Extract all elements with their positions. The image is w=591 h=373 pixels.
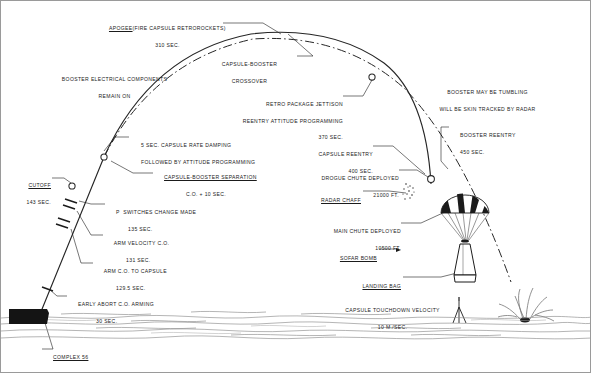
label-cutoff-l1: CUTOFF: [28, 182, 51, 188]
label-capsule-reentry-l1: CAPSULE REENTRY: [318, 151, 373, 157]
label-retro-jettison-l1: RETRO PACKAGE JETTISON: [266, 101, 343, 107]
marker-separation: [101, 154, 107, 160]
radar-chaff-cloud-icon: [402, 183, 414, 200]
recovery-antenna-icon: [453, 297, 466, 323]
label-apogee: APOGEE(FIRE CAPSULE RETROROCKETS) 310 SE…: [102, 16, 226, 57]
label-early-abort-l1: EARLY ABORT C.O. ARMING: [78, 301, 154, 307]
marker-drogue-deploy: [428, 176, 435, 183]
label-booster-tumbling: BOOSTER MAY BE TUMBLING WILL BE SKIN TRA…: [432, 80, 535, 121]
landing-bag-illustration: [454, 275, 476, 282]
label-booster-reentry: BOOSTER REENTRY 450 SEC.: [453, 123, 516, 164]
label-complex-l1: COMPLEX 56: [53, 354, 88, 360]
label-touchdown-l2: 10 M./SEC.: [378, 324, 407, 330]
label-booster-tumbling-l2: WILL BE SKIN TRACKED BY RADAR: [439, 106, 535, 112]
label-crossover-l1: CAPSULE-BOOSTER: [222, 61, 277, 67]
label-cutoff-l2: 143 SEC.: [26, 199, 51, 205]
label-pc-switches-l1: P SWITCHES CHANGE MADE: [116, 209, 196, 215]
label-rate-damping-l1: 5 SEC. CAPSULE RATE DAMPING: [141, 142, 231, 148]
label-touchdown-l1: CAPSULE TOUCHDOWN VELOCITY: [345, 307, 440, 313]
label-landing-bag-l1: LANDING BAG: [362, 283, 401, 289]
capsule-illustration: [454, 244, 476, 282]
label-complex: COMPLEX 56 PAD 5: [46, 345, 88, 373]
main-parachute-illustration: [441, 193, 489, 242]
label-landing-bag: LANDING BAG: [355, 274, 401, 299]
label-rate-damping-l2: FOLLOWED BY ATTITUDE PROGRAMMING: [141, 159, 255, 165]
label-cutoff: CUTOFF 143 SEC.: [19, 173, 51, 214]
marker-retro-jettison: [369, 74, 375, 80]
label-booster-tumbling-l1: BOOSTER MAY BE TUMBLING: [447, 89, 528, 95]
label-arm-velocity-l1: ARM VELOCITY C.O.: [114, 240, 170, 246]
label-sofar-bomb-l1: SOFAR BOMB: [340, 255, 377, 261]
label-crossover-l2: CROSSOVER: [232, 78, 268, 84]
label-drogue-l2: 21000 FT.: [373, 192, 399, 198]
label-retro-jettison-l3: 370 SEC.: [318, 134, 343, 140]
label-main-chute-l1: MAIN CHUTE DEPLOYED: [334, 228, 401, 234]
label-arm-co-capsule-l2: 129.5 SEC.: [104, 285, 145, 291]
mission-profile-diagram: APOGEE(FIRE CAPSULE RETROROCKETS) 310 SE…: [0, 0, 591, 373]
label-crossover: CAPSULE-BOOSTER CROSSOVER: [215, 52, 278, 93]
label-early-abort: EARLY ABORT C.O. ARMING 30 SEC.: [71, 292, 154, 333]
label-booster-reentry-l2: 450 SEC.: [460, 149, 485, 155]
label-drogue-l1: DROGUE CHUTE DEPLOYED: [321, 175, 399, 181]
label-early-abort-l2: 30 SEC.: [78, 318, 117, 324]
label-retro-jettison-l2: REENTRY ATTITUDE PROGRAMMING: [243, 118, 343, 124]
label-booster-electrical-l2: REMAIN ON: [99, 93, 131, 99]
label-main-chute-l2: 10500 FT.: [375, 245, 401, 251]
label-separation-l1: CAPSULE-BOOSTER SEPARATION: [164, 174, 257, 180]
label-apogee-time: 310 SEC.: [155, 42, 180, 48]
label-radar-chaff-l1: RADAR CHAFF: [321, 197, 361, 203]
label-booster-reentry-l1: BOOSTER REENTRY: [460, 132, 516, 138]
label-booster-electrical-l1: BOOSTER ELECTRICAL COMPONENTS: [62, 76, 167, 82]
booster-impact-splash: [498, 288, 554, 321]
label-separation-l2: C.O. + 10 SEC.: [164, 191, 226, 197]
label-radar-chaff: RADAR CHAFF: [314, 188, 361, 213]
label-sofar-bomb: SOFAR BOMB: [333, 246, 377, 271]
label-booster-electrical: BOOSTER ELECTRICAL COMPONENTS REMAIN ON: [55, 67, 167, 108]
label-apogee-title: APOGEE: [109, 25, 133, 31]
launch-pad-shape: [9, 309, 49, 324]
marker-cutoff: [69, 183, 75, 189]
label-arm-co-capsule-l1: ARM C.O. TO CAPSULE: [104, 268, 167, 274]
label-apogee-detail: (FIRE CAPSULE RETROROCKETS): [133, 25, 226, 31]
label-touchdown: CAPSULE TOUCHDOWN VELOCITY 10 M./SEC.: [338, 298, 440, 339]
